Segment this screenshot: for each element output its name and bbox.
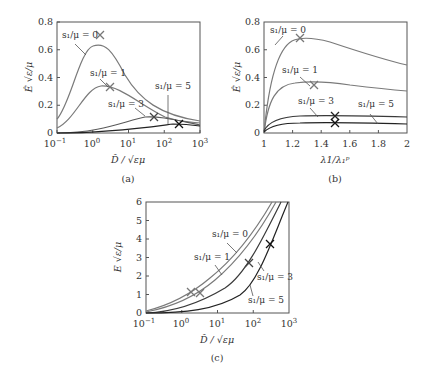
svg-text:101: 101: [120, 137, 137, 149]
y-tick: 0: [47, 127, 53, 138]
svg-text:10−1: 10−1: [133, 317, 155, 329]
y-tick: 1: [136, 289, 142, 300]
caption-c: (c): [211, 352, 224, 363]
chart-a: 0 0.2 0.4 0.6 0.8 10−1 100 101 102 103: [23, 16, 208, 184]
caption-b: (b): [328, 173, 342, 184]
chart-b: 0 0.2 0.4 0.6 0.8 1 1.2 1.4 1.6 1.8 2 s₁…: [231, 16, 410, 184]
label-s3: s₁/μ = 3: [108, 99, 144, 109]
y-tick: 0.4: [38, 72, 53, 83]
svg-text:100: 100: [173, 317, 190, 329]
x-tick: 10: [44, 138, 56, 149]
x-tick: 1.2: [285, 138, 300, 149]
x-tick: 10: [133, 318, 145, 329]
marker-s3: [245, 259, 253, 267]
svg-text:101: 101: [209, 317, 226, 329]
caption-a: (a): [121, 173, 134, 184]
y-axis-label: Ê √ε/μ: [231, 62, 242, 93]
x-tick: 10: [209, 318, 221, 329]
label-s5: s₁/μ = 5: [358, 99, 394, 109]
label-s1: s₁/μ = 1: [282, 65, 318, 75]
figure: 0 0.2 0.4 0.6 0.8 10−1 100 101 102 103: [0, 0, 430, 382]
x-axis-label: D̂ / √εμ: [110, 154, 145, 165]
y-tick: 3: [136, 252, 142, 263]
y-tick: 0.6: [245, 44, 260, 55]
svg-text:10−1: 10−1: [44, 137, 66, 149]
marker-s0: [187, 288, 195, 296]
label-s0: s₁/μ = 0: [212, 229, 248, 239]
x-tick: 10: [156, 138, 168, 149]
y-tick: 5: [136, 215, 142, 226]
y-tick: 0: [136, 307, 142, 318]
y-tick: 0: [254, 127, 260, 138]
x-axis-label: D̂ / √εμ: [199, 334, 234, 345]
y-tick: 0.6: [38, 44, 53, 55]
label-s0: s₁/μ = 0: [62, 30, 98, 40]
x-tick: 10: [281, 318, 293, 329]
label-s5: s₁/μ = 5: [248, 295, 284, 305]
x-tick: 10: [173, 318, 185, 329]
x-tick: 1.4: [314, 138, 329, 149]
y-tick: 0.2: [38, 99, 53, 110]
y-tick: 0.8: [245, 16, 260, 27]
svg-text:100: 100: [84, 137, 101, 149]
x-tick: 10: [245, 318, 257, 329]
svg-text:103: 103: [192, 137, 209, 149]
label-s3: s₁/μ = 3: [257, 272, 293, 282]
x-tick: 1.8: [371, 138, 386, 149]
x-tick: 10: [192, 138, 204, 149]
svg-text:102: 102: [245, 317, 262, 329]
y-tick: 0.8: [38, 16, 53, 27]
label-s0: s₁/μ = 0: [270, 25, 306, 35]
x-tick: 1: [261, 138, 267, 149]
x-axis-label: λ1/λ₁ᵖ: [320, 154, 350, 165]
svg-text:103: 103: [281, 317, 298, 329]
x-tick: 10: [84, 138, 96, 149]
label-s3: s₁/μ = 3: [298, 96, 334, 106]
y-tick: 4: [136, 233, 142, 244]
x-tick: 10: [120, 138, 132, 149]
y-tick: 0.2: [245, 99, 260, 110]
label-s1: s₁/μ = 1: [90, 68, 126, 78]
y-tick: 2: [136, 270, 142, 281]
y-axis-label: E √ε/μ: [112, 242, 123, 273]
svg-text:102: 102: [156, 137, 173, 149]
y-tick: 0.4: [245, 72, 260, 83]
label-s5: s₁/μ = 5: [155, 81, 191, 91]
x-tick: 2: [404, 138, 410, 149]
y-tick: 6: [136, 196, 142, 207]
y-axis-label: Ê √ε/μ: [23, 62, 34, 93]
chart-c: 0 1 2 3 4 5 6 10−1 100 101 102 103: [112, 196, 297, 363]
label-s1: s₁/μ = 1: [194, 252, 230, 262]
x-tick: 1.6: [342, 138, 357, 149]
